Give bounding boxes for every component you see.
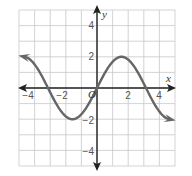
graph: x y O −4 −2 2 4 4 2 −2 −4 <box>0 0 192 176</box>
x-tick-neg2: −2 <box>56 90 68 101</box>
x-tick-2: 2 <box>125 90 131 101</box>
y-tick-neg2: −2 <box>83 115 95 126</box>
y-tick-neg4: −4 <box>83 146 95 157</box>
y-axis-label: y <box>101 8 107 20</box>
x-tick-neg4: −4 <box>22 90 34 101</box>
x-tick-4: 4 <box>156 90 162 101</box>
y-tick-2: 2 <box>88 51 94 62</box>
origin-label: O <box>88 88 96 100</box>
y-tick-4: 4 <box>88 20 94 31</box>
x-axis-label: x <box>165 72 171 84</box>
